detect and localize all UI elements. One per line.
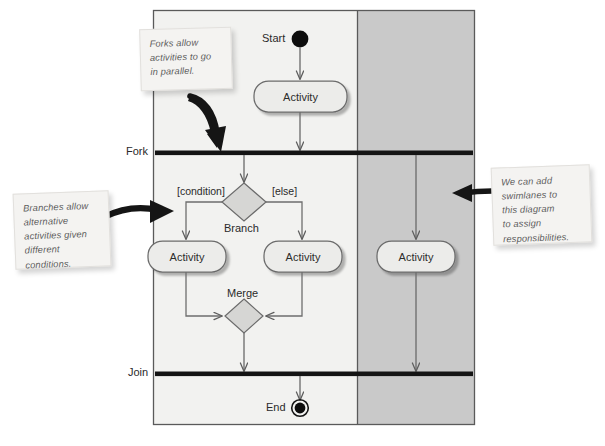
note-branches-line-5: conditions. xyxy=(25,255,102,272)
branch-label: Branch xyxy=(224,223,259,234)
activity-lane2-label: Activity xyxy=(377,252,455,263)
activity-right-label: Activity xyxy=(264,252,342,263)
else-guard-label: [else] xyxy=(272,186,297,197)
join-label: Join xyxy=(128,367,148,378)
note-forks-line-3: in parallel. xyxy=(150,63,223,79)
join-bar xyxy=(155,372,473,377)
fork-label: Fork xyxy=(126,146,148,157)
end-label: End xyxy=(266,402,286,413)
activity-left-label: Activity xyxy=(148,252,226,263)
fork-bar xyxy=(155,151,473,156)
activity-diagram-canvas: Fork Join Start End Branch Merge [condit… xyxy=(0,0,605,446)
condition-guard-label: [condition] xyxy=(177,186,225,197)
start-node xyxy=(292,31,309,48)
merge-label: Merge xyxy=(227,288,258,299)
note-swimlanes: We can add swimlanes to this diagram to … xyxy=(491,164,593,245)
activity-top-label: Activity xyxy=(254,92,347,103)
start-label: Start xyxy=(262,33,285,44)
note-forks: Forks allow activities to go in parallel… xyxy=(139,27,233,92)
note-swimlanes-line-5: responsibilities. xyxy=(503,229,583,246)
note-branches: Branches allow alternative activities gi… xyxy=(13,190,112,270)
